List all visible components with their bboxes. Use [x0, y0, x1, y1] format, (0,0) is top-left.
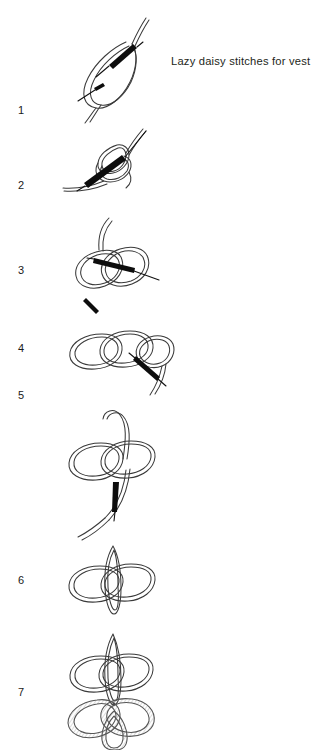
- step-number-7: 7: [18, 687, 38, 698]
- step-number-4: 4: [18, 343, 38, 354]
- flower-center: [113, 703, 116, 706]
- step-number-2: 2: [18, 180, 38, 191]
- petal-texture: [68, 700, 120, 738]
- step-5-illustration: [69, 411, 155, 540]
- sewing-needle-icon: [77, 131, 146, 191]
- lazy-daisy-instruction-diagram: Lazy daisy stitches for vest 1 2 3 4 5 6…: [0, 0, 317, 750]
- step-number-5: 5: [18, 390, 38, 401]
- petal-texture: [102, 711, 127, 750]
- step-1-illustration: [78, 18, 149, 123]
- step-number-1: 1: [18, 105, 38, 116]
- step-4-illustration: [70, 331, 174, 395]
- step-6-illustration: [69, 546, 155, 614]
- sewing-needle-icon: [96, 42, 143, 77]
- step-7-illustration: [68, 634, 154, 750]
- step-3-illustration: [76, 218, 159, 314]
- needle-fragment-icon: [83, 298, 99, 314]
- step-number-6: 6: [18, 575, 38, 586]
- diagram-caption: Lazy daisy stitches for vest: [171, 54, 310, 68]
- needle-tip-icon: [78, 83, 105, 101]
- step-2-illustration: [63, 129, 146, 191]
- stitch-illustrations: [0, 0, 317, 750]
- step-number-3: 3: [18, 265, 38, 276]
- petal-texture: [101, 699, 155, 737]
- sewing-needle-icon: [129, 353, 166, 386]
- sewing-needle-icon: [112, 482, 119, 521]
- sewing-needle-icon: [87, 258, 159, 280]
